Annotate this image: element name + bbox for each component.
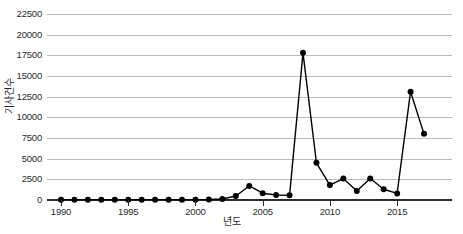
data-point-marker: [85, 197, 91, 203]
x-axis-title: 년도: [0, 213, 463, 228]
data-point-marker: [152, 197, 158, 203]
y-axis-tick-label: 22500: [0, 9, 42, 19]
data-point-marker: [367, 176, 373, 182]
data-point-marker: [421, 131, 427, 137]
plot-area: [47, 14, 452, 200]
data-point-marker: [166, 197, 172, 203]
y-axis-tick-label: 20000: [0, 30, 42, 40]
data-point-marker: [340, 176, 346, 182]
y-axis-tick-label: 17500: [0, 50, 42, 60]
y-axis-tick-label: 5000: [0, 154, 42, 164]
y-axis-tick-label: 7500: [0, 133, 42, 143]
data-point-marker: [246, 183, 252, 189]
data-point-marker: [394, 190, 400, 196]
data-point-marker: [327, 182, 333, 188]
data-point-marker: [219, 196, 225, 202]
data-point-marker: [179, 197, 185, 203]
y-axis-title: 기사건수: [1, 66, 16, 126]
data-point-marker: [273, 192, 279, 198]
data-point-marker: [71, 197, 77, 203]
data-point-marker: [260, 190, 266, 196]
data-point-marker: [98, 197, 104, 203]
y-axis-tick-label: 0: [0, 195, 42, 205]
data-point-marker: [300, 50, 306, 56]
line-chart: 0250050007500100001250015000175002000022…: [0, 0, 463, 234]
data-point-marker: [408, 89, 414, 95]
data-point-marker: [287, 192, 293, 198]
y-axis-tick-label: 2500: [0, 174, 42, 184]
data-point-marker: [381, 186, 387, 192]
data-point-marker: [233, 193, 239, 199]
data-point-marker: [112, 197, 118, 203]
data-point-marker: [206, 197, 212, 203]
data-point-marker: [313, 160, 319, 166]
data-point-marker: [139, 197, 145, 203]
series-line: [47, 14, 452, 200]
data-point-marker: [354, 188, 360, 194]
